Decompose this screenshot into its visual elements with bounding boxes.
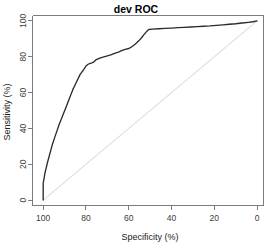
y-axis-title: Sensitivity (%) xyxy=(2,83,12,140)
x-tick-label: 20 xyxy=(210,213,220,223)
x-tick-label: 100 xyxy=(36,213,50,223)
x-tick-label: 80 xyxy=(81,213,91,223)
y-axis-ticks: 020406080100 xyxy=(18,14,32,203)
chance-diagonal-path xyxy=(43,21,257,200)
y-tick-label: 40 xyxy=(19,123,29,133)
y-tick-label: 20 xyxy=(19,159,29,169)
x-tick-label: 60 xyxy=(124,213,134,223)
roc-plot-figure: dev ROC 100806040200 020406080100 Specif… xyxy=(0,0,273,250)
chance-diagonal-line xyxy=(43,21,257,200)
x-tick-label: 40 xyxy=(167,213,177,223)
x-axis-ticks: 100806040200 xyxy=(36,206,260,223)
y-tick-label: 80 xyxy=(19,52,29,62)
roc-chart-canvas: dev ROC 100806040200 020406080100 Specif… xyxy=(0,0,273,250)
y-tick-label: 0 xyxy=(19,197,29,202)
y-tick-label: 100 xyxy=(18,14,28,28)
x-axis-title: Specificity (%) xyxy=(121,232,178,242)
y-tick-label: 60 xyxy=(19,88,29,98)
x-tick-label: 0 xyxy=(255,213,260,223)
chart-title: dev ROC xyxy=(114,3,159,15)
